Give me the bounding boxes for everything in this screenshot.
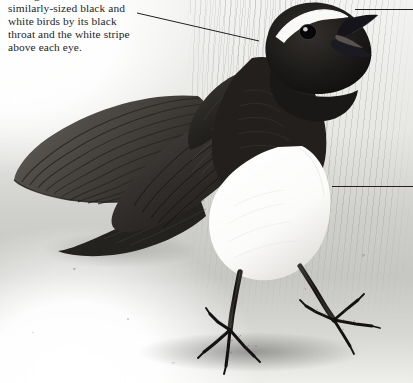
leader-to-bill bbox=[355, 9, 413, 10]
willie-wagtail-illustration bbox=[0, 0, 413, 383]
illustration-plate bbox=[0, 0, 413, 383]
eye bbox=[299, 24, 316, 39]
leader-to-breast bbox=[332, 186, 413, 187]
illustration-page: distinguished from other similarly-sized… bbox=[0, 0, 413, 383]
caption-text-block: distinguished from other similarly-sized… bbox=[8, 0, 140, 54]
caption-line-3: throat and the white stripe bbox=[8, 28, 140, 41]
caption-line-1: similarly-sized black and bbox=[8, 2, 140, 15]
caption-line-4: above each eye. bbox=[8, 41, 140, 54]
caption-line-2: white birds by its black bbox=[8, 15, 140, 28]
eye-highlight bbox=[303, 27, 308, 32]
